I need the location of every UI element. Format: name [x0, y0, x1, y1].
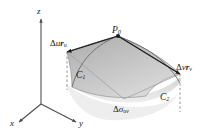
v-subscript: v	[189, 66, 192, 72]
y-axis-label: y	[79, 119, 83, 128]
surface-patch-figure: z x y P0 Δuru Δvrv C1 C2 Δσuv	[0, 0, 217, 140]
y-axis	[41, 104, 76, 122]
curve-c1-label: C1	[76, 71, 85, 81]
x-axis	[19, 104, 41, 122]
coordinate-axes	[19, 19, 76, 122]
vector-delta-v-rv-label: Δvrv	[176, 63, 192, 73]
area-element-label: Δσuv	[113, 105, 129, 115]
u-subscript: u	[64, 42, 67, 48]
curve-c2-label: C2	[160, 93, 169, 103]
vector-delta-u-ru-label: Δuru	[50, 39, 67, 49]
uv-subscript: uv	[123, 108, 129, 114]
point-p0-subscript: 0	[118, 28, 121, 35]
curve-c2-subscript: 2	[166, 95, 169, 102]
point-p0-label: P0	[112, 26, 121, 36]
curve-c1-subscript: 1	[82, 73, 85, 80]
z-axis-label: z	[37, 7, 41, 16]
x-axis-label: x	[10, 119, 14, 128]
